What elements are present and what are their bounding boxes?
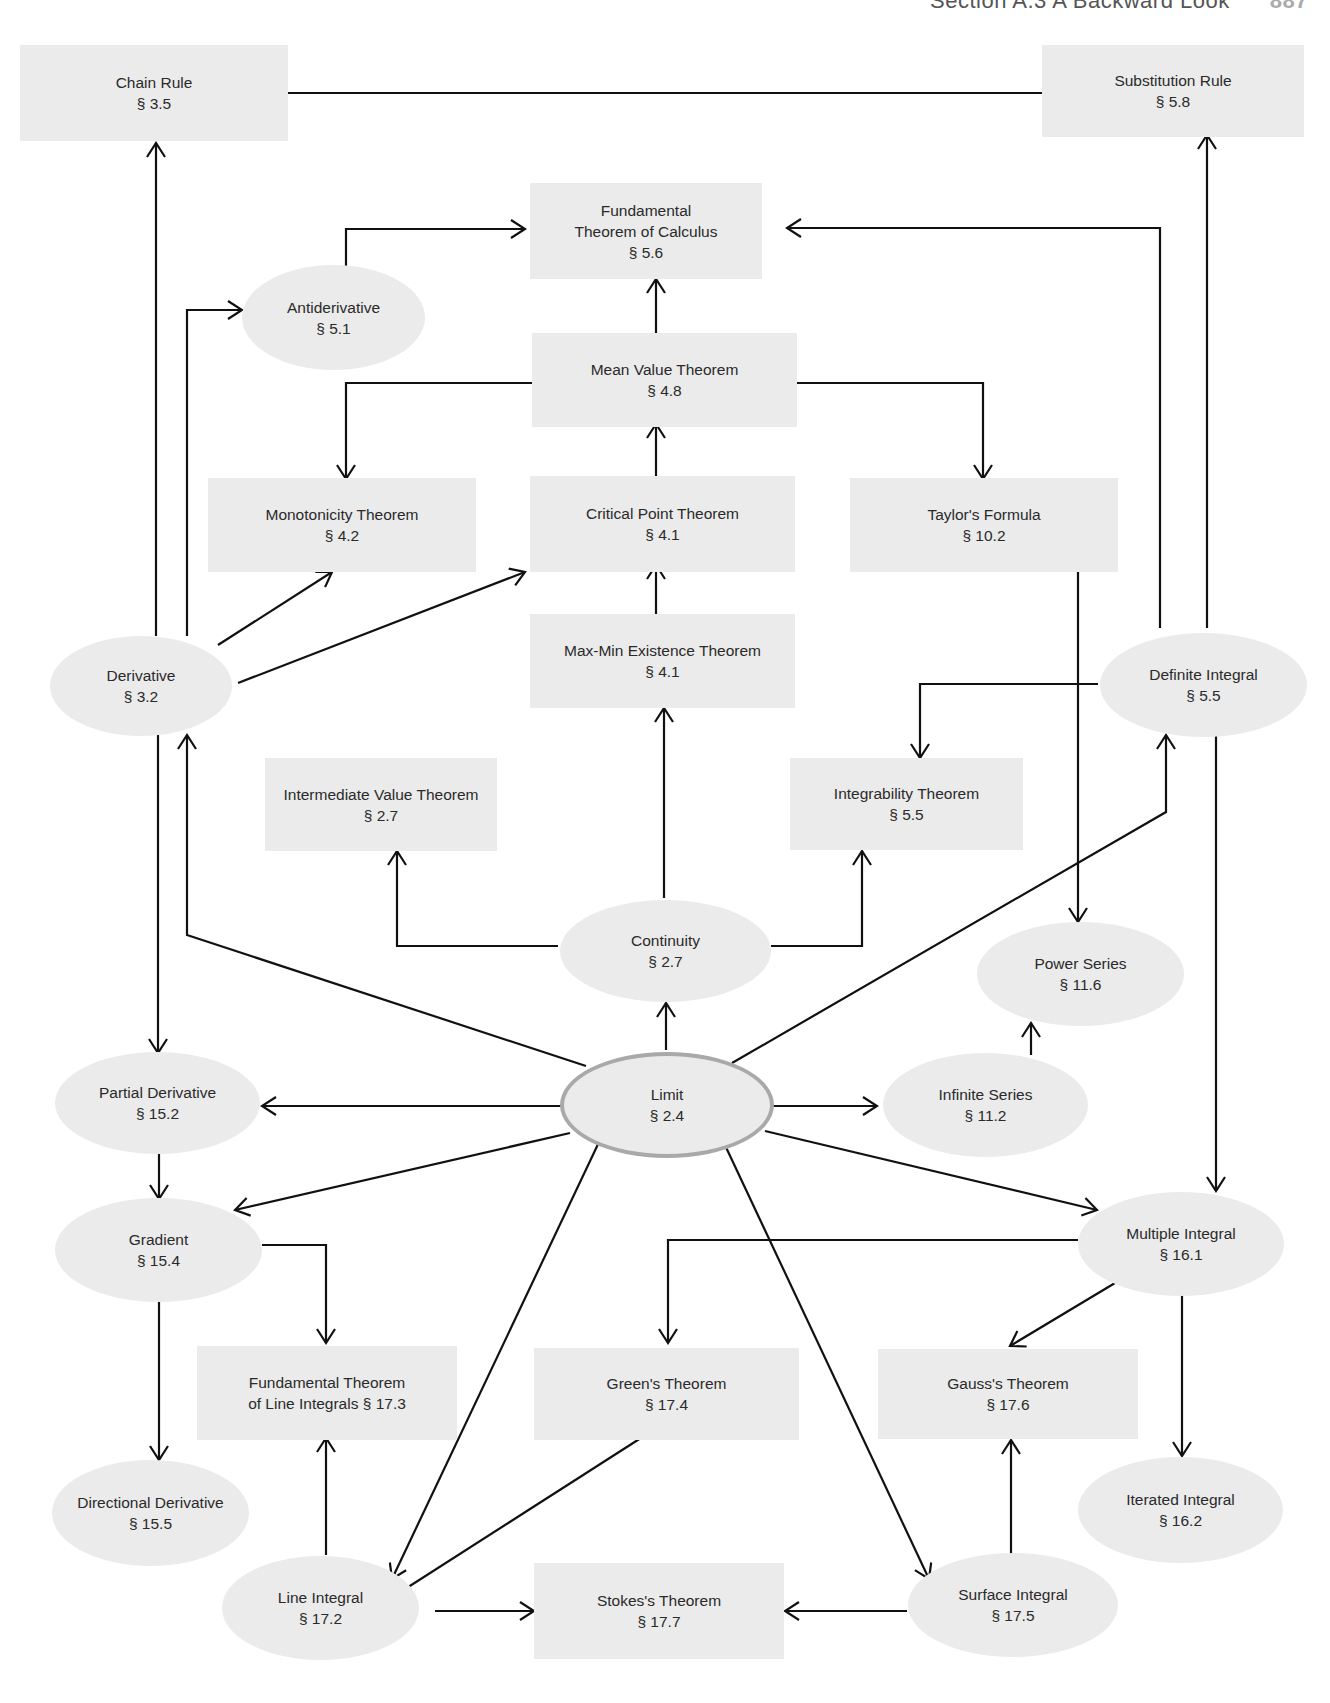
node-title: Directional Derivative	[77, 1492, 223, 1513]
node-section: § 4.1	[645, 661, 679, 682]
node-section: § 17.7	[637, 1611, 680, 1632]
node-section: § 4.1	[645, 524, 679, 545]
node-section: § 5.5	[1186, 685, 1220, 706]
node-title: Taylor's Formula	[927, 504, 1040, 525]
node-title: Stokes's Theorem	[597, 1590, 721, 1611]
node-title: Intermediate Value Theorem	[283, 784, 478, 805]
node-gradient: Gradient § 15.4	[55, 1198, 262, 1302]
edge-derivative-to-critical	[238, 572, 525, 683]
node-section: § 16.2	[1159, 1510, 1202, 1531]
edge-multiple-to-gauss	[1010, 1283, 1115, 1346]
node-partial-derivative: Partial Derivative § 15.2	[55, 1052, 260, 1154]
node-title: Partial Derivative	[99, 1082, 216, 1103]
node-ftli: Fundamental Theorem of Line Integrals § …	[197, 1346, 457, 1440]
node-section: § 4.8	[647, 380, 681, 401]
node-section: § 11.2	[965, 1105, 1007, 1126]
node-title: Derivative	[107, 665, 176, 686]
node-chain-rule: Chain Rule § 3.5	[20, 45, 288, 141]
node-section: § 2.7	[648, 951, 682, 972]
node-title: Surface Integral	[958, 1584, 1067, 1605]
edge-multiple-to-green	[668, 1240, 1078, 1343]
node-surface-integral: Surface Integral § 17.5	[908, 1553, 1118, 1657]
node-section: § 2.7	[364, 805, 398, 826]
node-section: § 11.6	[1060, 974, 1102, 995]
node-section: § 3.2	[124, 686, 158, 707]
node-greens-theorem: Green's Theorem § 17.4	[534, 1348, 799, 1440]
edge-mvt-to-taylor	[797, 383, 983, 479]
node-section: § 4.2	[325, 525, 359, 546]
node-title: Mean Value Theorem	[591, 359, 739, 380]
node-title: Iterated Integral	[1126, 1489, 1235, 1510]
edge-mvt-to-monotonicity	[346, 383, 532, 479]
node-section: § 15.5	[129, 1513, 172, 1534]
node-title: Integrability Theorem	[834, 783, 979, 804]
node-critical-point: Critical Point Theorem § 4.1	[530, 476, 795, 572]
edge-limit-to-gradient	[235, 1133, 570, 1210]
node-title: Limit	[651, 1084, 684, 1105]
node-limit: Limit § 2.4	[560, 1052, 774, 1158]
node-title: Green's Theorem	[607, 1373, 727, 1394]
node-directional-derivative: Directional Derivative § 15.5	[52, 1460, 249, 1566]
node-ivt: Intermediate Value Theorem § 2.7	[265, 758, 497, 851]
node-continuity: Continuity § 2.7	[560, 900, 771, 1002]
node-title: Fundamental Theorem of Line Integrals § …	[248, 1372, 406, 1414]
node-antiderivative: Antiderivative § 5.1	[242, 265, 425, 370]
node-title: Gradient	[129, 1229, 188, 1250]
node-infinite-series: Infinite Series § 11.2	[883, 1053, 1088, 1157]
node-title: Chain Rule	[116, 72, 193, 93]
node-gauss-theorem: Gauss's Theorem § 17.6	[878, 1349, 1138, 1439]
node-title: Continuity	[631, 930, 700, 951]
node-section: § 16.1	[1159, 1244, 1202, 1265]
edge-derivative-to-monotonicity	[218, 572, 332, 645]
node-section: § 10.2	[962, 525, 1005, 546]
edge-continuity-to-ivt	[397, 851, 558, 946]
node-line-integral: Line Integral § 17.2	[222, 1556, 419, 1660]
node-max-min: Max-Min Existence Theorem § 4.1	[530, 614, 795, 708]
edge-continuity-to-integrability	[771, 851, 862, 946]
node-title: Multiple Integral	[1126, 1223, 1235, 1244]
node-definite-integral: Definite Integral § 5.5	[1100, 633, 1307, 737]
node-mvt: Mean Value Theorem § 4.8	[532, 333, 797, 427]
node-section: § 17.6	[986, 1394, 1029, 1415]
node-section: § 3.5	[137, 93, 171, 114]
node-title: Definite Integral	[1149, 664, 1258, 685]
node-title: Power Series	[1034, 953, 1126, 974]
node-derivative: Derivative § 3.2	[50, 636, 232, 736]
edge-definite-to-integrability	[920, 684, 1098, 758]
node-title: Gauss's Theorem	[947, 1373, 1069, 1394]
node-section: § 5.6	[629, 242, 663, 263]
edge-derivative-to-antiderivative	[187, 310, 242, 636]
edge-gradient-to-ftli	[262, 1245, 326, 1343]
node-title: Monotonicity Theorem	[265, 504, 418, 525]
node-title: Infinite Series	[939, 1084, 1033, 1105]
node-integrability: Integrability Theorem § 5.5	[790, 758, 1023, 850]
node-multiple-integral: Multiple Integral § 16.1	[1078, 1192, 1284, 1296]
node-taylor: Taylor's Formula § 10.2	[850, 478, 1118, 572]
node-title: Fundamental Theorem of Calculus	[574, 200, 717, 242]
node-section: § 15.4	[137, 1250, 180, 1271]
node-title: Substitution Rule	[1114, 70, 1231, 91]
edge-antiderivative-to-ftc	[346, 229, 525, 268]
node-section: § 17.4	[645, 1394, 688, 1415]
node-ftc: Fundamental Theorem of Calculus § 5.6	[530, 183, 762, 279]
node-section: § 17.2	[299, 1608, 342, 1629]
node-stokes-theorem: Stokes's Theorem § 17.7	[534, 1563, 784, 1659]
node-section: § 15.2	[136, 1103, 179, 1124]
node-title: Critical Point Theorem	[586, 503, 739, 524]
node-section: § 2.4	[650, 1105, 684, 1126]
node-title: Max-Min Existence Theorem	[564, 640, 761, 661]
node-section: § 5.8	[1156, 91, 1190, 112]
node-iterated-integral: Iterated Integral § 16.2	[1078, 1457, 1283, 1563]
node-substitution-rule: Substitution Rule § 5.8	[1042, 45, 1304, 137]
node-monotonicity: Monotonicity Theorem § 4.2	[208, 478, 476, 572]
node-power-series: Power Series § 11.6	[977, 922, 1184, 1026]
node-section: § 5.1	[316, 318, 350, 339]
node-section: § 5.5	[889, 804, 923, 825]
node-title: Line Integral	[278, 1587, 363, 1608]
node-title: Antiderivative	[287, 297, 380, 318]
node-section: § 17.5	[991, 1605, 1034, 1626]
